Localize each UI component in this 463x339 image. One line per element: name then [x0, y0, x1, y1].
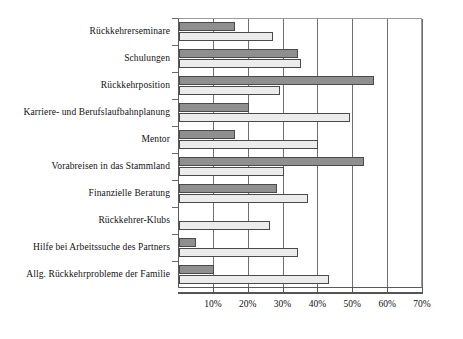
x-tick-label-70: 70% [402, 299, 442, 309]
category-axis: RückkehrerseminareSchulungenRückkehrposi… [0, 18, 174, 288]
y-tick-0 [172, 18, 178, 19]
x-tick-70 [422, 287, 423, 294]
category-label-5: Vorabreisen in das Stammland [0, 161, 170, 172]
gridline-40 [317, 19, 318, 287]
bar-series-b-row-5 [179, 167, 284, 176]
x-axis-line [178, 292, 423, 294]
gridline-60 [387, 19, 388, 287]
bar-series-b-row-6 [179, 194, 308, 203]
y-tick-7 [172, 207, 178, 208]
bar-series-b-row-4 [179, 140, 318, 149]
category-label-9: Allg. Rückkehrprobleme der Familie [0, 269, 170, 280]
bar-series-b-row-0 [179, 32, 273, 41]
category-label-8: Hilfe bei Arbeitssuche des Partners [0, 242, 170, 253]
bar-series-a-row-1 [179, 49, 298, 58]
x-tick-60 [387, 287, 388, 294]
x-tick-50 [352, 287, 353, 294]
bar-series-a-row-9 [179, 265, 214, 274]
category-label-3: Karriere- und Berufslaufbahnplanung [0, 107, 170, 118]
category-label-4: Mentor [0, 134, 170, 145]
bar-series-b-row-9 [179, 275, 329, 284]
y-tick-2 [172, 72, 178, 73]
category-label-1: Schulungen [0, 53, 170, 64]
bar-series-b-row-3 [179, 113, 350, 122]
gridline-70 [422, 19, 423, 287]
x-tick-20 [248, 287, 249, 294]
bar-series-b-row-8 [179, 248, 298, 257]
bar-series-b-row-7 [179, 221, 270, 230]
x-tick-40 [317, 287, 318, 294]
y-tick-3 [172, 99, 178, 100]
category-label-7: Rückkehrer-Klubs [0, 215, 170, 226]
category-label-6: Finanzielle Beratung [0, 188, 170, 199]
x-tick-30 [283, 287, 284, 294]
x-tick-10 [213, 287, 214, 294]
y-tick-9 [172, 261, 178, 262]
bar-chart: RückkehrerseminareSchulungenRückkehrposi… [0, 0, 463, 339]
y-tick-5 [172, 153, 178, 154]
bar-series-b-row-2 [179, 86, 280, 95]
bar-series-a-row-0 [179, 22, 235, 31]
bar-series-a-row-4 [179, 130, 235, 139]
category-label-2: Rückkehrposition [0, 80, 170, 91]
bar-series-a-row-6 [179, 184, 277, 193]
category-label-0: Rückkehrerseminare [0, 26, 170, 37]
bar-series-b-row-1 [179, 59, 301, 68]
bar-series-a-row-2 [179, 76, 374, 85]
bar-series-a-row-5 [179, 157, 364, 166]
bar-series-a-row-3 [179, 103, 249, 112]
y-tick-8 [172, 234, 178, 235]
bar-series-a-row-8 [179, 238, 196, 247]
plot-area [178, 18, 422, 288]
y-tick-4 [172, 126, 178, 127]
y-tick-6 [172, 180, 178, 181]
gridline-50 [352, 19, 353, 287]
y-tick-1 [172, 45, 178, 46]
